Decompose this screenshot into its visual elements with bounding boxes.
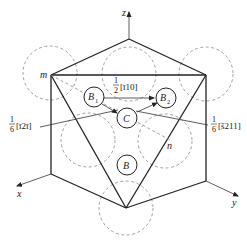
svg-text:[ī2ī]: [ī2ī] xyxy=(16,121,32,131)
svg-text:B: B xyxy=(123,160,129,171)
svg-text:2: 2 xyxy=(167,98,170,105)
point-n-label: n xyxy=(167,140,172,151)
svg-text:2: 2 xyxy=(114,86,118,95)
atom-b: B xyxy=(117,155,137,175)
dashed-circle-lower-right xyxy=(138,114,192,168)
svg-text:1: 1 xyxy=(114,76,118,85)
vector-label-right: 1 6 [š211] xyxy=(211,115,241,134)
atom-b2: B 2 xyxy=(156,88,176,108)
svg-text:[ī10]: [ī10] xyxy=(120,82,138,92)
svg-text:6: 6 xyxy=(10,125,14,134)
svg-text:[š211]: [š211] xyxy=(218,121,241,131)
svg-text:B: B xyxy=(88,91,94,102)
fcc-slip-diagram: z x y B 1 B 2 C B xyxy=(0,0,247,245)
atom-b1: B 1 xyxy=(84,87,104,107)
atom-c: C xyxy=(117,108,137,128)
c-b2-vector xyxy=(137,103,157,112)
svg-text:C: C xyxy=(123,113,130,124)
svg-text:1: 1 xyxy=(10,115,14,124)
svg-text:1: 1 xyxy=(95,97,98,104)
diagram-canvas: z x y B 1 B 2 C B xyxy=(0,0,247,245)
slip-plane-triangle xyxy=(51,75,206,208)
right-vector-leader xyxy=(136,111,208,125)
svg-text:1: 1 xyxy=(212,115,216,124)
z-axis-label: z xyxy=(121,7,126,18)
dashed-circle-m xyxy=(23,46,77,100)
vector-label-top: 1 2 [ī10] xyxy=(113,76,138,95)
y-axis-label: y xyxy=(231,197,237,208)
dashed-circle-top xyxy=(102,47,156,101)
point-m-label: m xyxy=(40,69,47,80)
vector-label-left: 1 6 [ī2ī] xyxy=(9,115,32,134)
x-axis-label: x xyxy=(16,188,22,199)
y-axis xyxy=(206,181,238,196)
x-axis xyxy=(17,174,51,186)
svg-text:6: 6 xyxy=(212,125,216,134)
svg-text:B: B xyxy=(160,92,166,103)
